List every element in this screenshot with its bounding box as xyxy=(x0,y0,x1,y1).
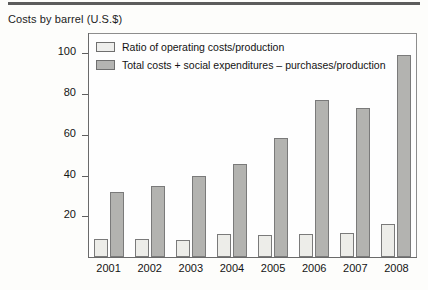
y-axis-tick xyxy=(82,94,88,95)
bar-operating-2001 xyxy=(94,239,108,257)
x-axis-label-2008: 2008 xyxy=(376,262,416,274)
bar-operating-2002 xyxy=(135,239,149,257)
bar-operating-2004 xyxy=(217,234,231,257)
y-axis-tick xyxy=(82,176,88,177)
x-axis-label-2001: 2001 xyxy=(89,262,129,274)
bar-total-2004 xyxy=(233,164,247,257)
y-axis-tick xyxy=(82,216,88,217)
x-axis-label-2007: 2007 xyxy=(335,262,375,274)
x-axis-label-2002: 2002 xyxy=(130,262,170,274)
bar-total-2005 xyxy=(274,138,288,257)
bar-total-2003 xyxy=(192,176,206,257)
bar-total-2007 xyxy=(356,108,370,257)
y-axis-label: 60 xyxy=(30,127,76,139)
bar-total-2008 xyxy=(397,55,411,257)
y-axis-label: 20 xyxy=(30,208,76,220)
bar-total-2001 xyxy=(110,192,124,257)
x-axis-label-2005: 2005 xyxy=(253,262,293,274)
bar-operating-2007 xyxy=(340,233,354,257)
y-axis-label: 40 xyxy=(30,168,76,180)
chart-title: Costs by barrel (U.S.$) xyxy=(8,13,122,25)
x-axis-label-2006: 2006 xyxy=(294,262,334,274)
bar-operating-2003 xyxy=(176,240,190,257)
x-axis-label-2004: 2004 xyxy=(212,262,252,274)
bar-operating-2008 xyxy=(381,224,395,257)
y-axis-tick xyxy=(82,53,88,54)
bar-total-2002 xyxy=(151,186,165,257)
bar-total-2006 xyxy=(315,100,329,257)
y-axis-label: 100 xyxy=(30,45,76,57)
y-axis-label: 80 xyxy=(30,86,76,98)
x-axis-label-2003: 2003 xyxy=(171,262,211,274)
x-axis-line xyxy=(88,257,417,258)
top-rule-divider xyxy=(8,2,420,5)
y-axis-tick xyxy=(82,135,88,136)
bar-operating-2006 xyxy=(299,234,313,257)
bar-operating-2005 xyxy=(258,235,272,257)
bars-layer xyxy=(88,33,417,257)
chart-page: Costs by barrel (U.S.$) Ratio of operati… xyxy=(0,0,428,290)
